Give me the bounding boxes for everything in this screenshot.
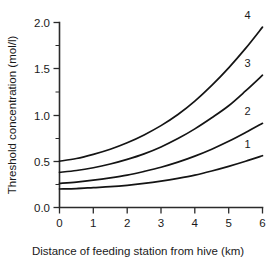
x-tick-label: 0 (56, 217, 62, 229)
series-label-1: 1 (244, 138, 250, 150)
series-label-2: 2 (244, 105, 250, 117)
x-tick-label: 2 (124, 217, 130, 229)
y-tick-label: 0.0 (34, 202, 50, 214)
chart-series-group (60, 27, 263, 189)
line-chart-svg: 0.0 0.5 1.0 1.5 2.0 0 1 2 3 4 5 6 Distan… (0, 0, 277, 267)
series-curve-3 (60, 75, 263, 172)
chart-series-labels: 1234 (244, 9, 250, 150)
x-tick-label: 1 (90, 217, 96, 229)
y-axis-major-ticks (54, 23, 60, 208)
x-tick-label: 6 (259, 217, 265, 229)
y-tick-label: 1.0 (34, 110, 50, 122)
series-curve-1 (60, 156, 263, 189)
x-tick-label: 3 (158, 217, 164, 229)
x-axis-tick-labels: 0 1 2 3 4 5 6 (56, 217, 265, 229)
x-axis-major-ticks (60, 208, 263, 214)
x-tick-label: 4 (192, 217, 199, 229)
chart-figure: 0.0 0.5 1.0 1.5 2.0 0 1 2 3 4 5 6 Distan… (0, 0, 277, 267)
y-axis-tick-labels: 0.0 0.5 1.0 1.5 2.0 (34, 17, 50, 214)
y-tick-label: 2.0 (34, 17, 50, 29)
x-axis-title: Distance of feeding station from hive (k… (32, 245, 244, 257)
series-curve-2 (60, 123, 263, 183)
x-tick-label: 5 (225, 217, 231, 229)
y-tick-label: 1.5 (34, 63, 50, 75)
y-axis-title: Threshold concentration (mol/l) (6, 36, 18, 195)
series-label-3: 3 (244, 57, 250, 69)
series-label-4: 4 (244, 9, 250, 21)
chart-axes (60, 23, 263, 208)
series-curve-4 (60, 27, 263, 161)
y-tick-label: 0.5 (34, 156, 50, 168)
